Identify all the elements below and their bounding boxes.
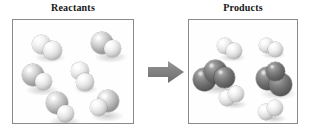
atom-sphere	[104, 40, 121, 57]
atom-sphere	[268, 42, 283, 57]
atom-sphere	[43, 41, 62, 60]
atom-sphere	[228, 86, 244, 102]
products-box	[188, 19, 298, 124]
reaction-arrow	[148, 60, 184, 84]
atom-sphere	[57, 105, 74, 122]
atom-sphere	[90, 99, 107, 116]
atom-sphere	[226, 43, 242, 59]
atom-sphere	[76, 73, 94, 91]
atom-sphere	[214, 67, 235, 88]
atom-sphere	[267, 100, 283, 116]
atom-sphere	[35, 73, 52, 90]
reactants-box	[12, 19, 134, 124]
reactants-title: Reactants	[12, 2, 134, 14]
atom-sphere	[266, 62, 285, 81]
products-title: Products	[188, 2, 298, 14]
figure-canvas: Reactants Products	[0, 0, 310, 136]
